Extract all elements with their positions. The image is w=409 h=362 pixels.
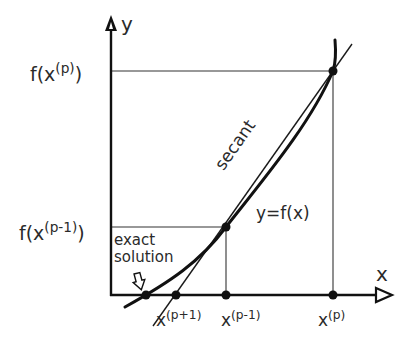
y-axis-label: y (121, 14, 133, 34)
x-tick-x-p: x(p) (318, 309, 345, 329)
curve-fx (125, 40, 336, 307)
exact-solution-label-line2: solution (114, 250, 173, 265)
point-exact-solution (142, 291, 151, 300)
secant-line (153, 44, 352, 326)
x-tick-x-p-minus-1: x(p-1) (221, 309, 261, 329)
x-tick-x-p-plus-1: x(p+1) (156, 309, 201, 329)
point-x-p-foot (329, 291, 338, 300)
x-axis-label: x (376, 264, 388, 284)
point-p-minus-1 (222, 223, 231, 232)
point-x-p-plus-1 (172, 291, 181, 300)
curve-label: y=f(x) (256, 205, 310, 222)
y-tick-f-x-p-minus-1: f(x(p-1)) (19, 221, 85, 243)
point-x-p-minus-1-foot (222, 291, 231, 300)
x-axis-arrow-icon (376, 288, 392, 302)
point-p (329, 67, 338, 76)
exact-solution-arrow-icon (131, 272, 147, 292)
secant-method-diagram (0, 0, 409, 362)
y-tick-f-x-p: f(x(p)) (30, 62, 82, 84)
exact-solution-label-line1: exact (114, 233, 155, 248)
